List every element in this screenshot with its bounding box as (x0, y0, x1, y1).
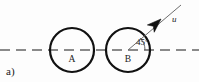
circle-b-label: B (125, 54, 131, 64)
circle-a-label: A (69, 54, 76, 64)
figure-panel-a: A B 45° u a) (0, 0, 199, 82)
angle-label-45deg: 45° (136, 37, 149, 47)
panel-label-a: a) (6, 65, 15, 78)
figure-canvas: A B 45° u a) (0, 0, 199, 82)
velocity-label-u: u (172, 14, 177, 24)
velocity-arrowhead-icon (147, 19, 161, 32)
